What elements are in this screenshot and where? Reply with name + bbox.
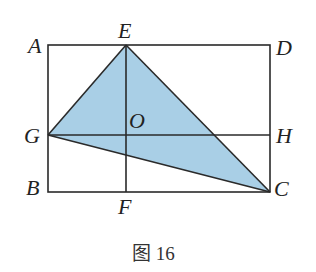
label-e: E <box>117 18 132 43</box>
label-f: F <box>117 194 132 219</box>
label-o: O <box>129 108 145 133</box>
label-b: B <box>26 175 39 200</box>
shaded-triangle-egc <box>48 45 270 192</box>
label-d: D <box>275 35 292 60</box>
label-c: C <box>274 176 289 201</box>
geometry-diagram: A E D G O H B F C 图 16 <box>0 0 316 272</box>
label-a: A <box>26 33 42 58</box>
label-g: G <box>24 123 40 148</box>
figure-caption: 图 16 <box>132 243 175 264</box>
label-h: H <box>275 123 293 148</box>
